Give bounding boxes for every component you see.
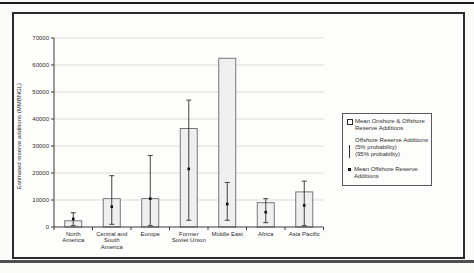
category-label: South	[104, 237, 120, 243]
legend-line: Reserve Additions	[355, 125, 425, 132]
y-tick-label: 40000	[32, 116, 49, 122]
mean-point	[303, 204, 306, 207]
chart-frame: Estimated reserve additions (MMBNGL) 010…	[12, 12, 465, 259]
top-rule	[0, 2, 474, 4]
legend-line: Offshore Reserve Additions	[355, 137, 429, 144]
legend-item-mean-offshore: Mean Offshore Reserve Additions	[347, 166, 429, 180]
category-label: America	[62, 237, 85, 243]
bottom-rule	[0, 260, 474, 263]
y-tick-label: 60000	[32, 62, 49, 68]
category-label: America	[101, 244, 124, 250]
figure-page: Estimated reserve additions (MMBNGL) 010…	[0, 0, 474, 273]
y-tick-label: 20000	[32, 170, 49, 176]
legend-line: (5% probability)	[355, 144, 429, 151]
mean-point	[72, 218, 75, 221]
category-label: Asia Pacific	[289, 231, 320, 237]
legend-item-mean-onshore-offshore: Mean Onshore & Offshore Reserve Addition…	[347, 118, 429, 132]
legend-text-block: Offshore Reserve Additions (5% probabili…	[355, 137, 429, 158]
mean-point	[149, 197, 152, 200]
legend-line: (95% probability)	[355, 151, 429, 158]
open-square-icon	[347, 119, 353, 125]
legend-line: Additions	[354, 173, 418, 180]
filled-square-icon	[348, 168, 351, 171]
mean-point	[226, 203, 229, 206]
mean-point	[110, 205, 113, 208]
y-tick-label: 0	[46, 224, 50, 230]
category-label: Africa	[258, 231, 274, 237]
y-tick-label: 50000	[32, 89, 49, 95]
legend-text-block: Mean Onshore & Offshore Reserve Addition…	[355, 118, 425, 132]
category-label: Former	[179, 231, 198, 237]
category-label: Europe	[141, 231, 161, 237]
category-label: Soviet Union	[172, 237, 206, 243]
y-tick-label: 10000	[32, 197, 49, 203]
legend-box: Mean Onshore & Offshore Reserve Addition…	[342, 113, 432, 186]
mean-point	[187, 168, 190, 171]
category-label: Central and	[96, 231, 127, 237]
error-bar-icon	[349, 145, 350, 158]
legend-line: Mean Onshore & Offshore	[355, 118, 425, 125]
y-tick-label: 70000	[32, 35, 49, 41]
y-tick-label: 30000	[32, 143, 49, 149]
legend-line: Mean Offshore Reserve	[354, 166, 418, 173]
legend-item-offshore-range: Offshore Reserve Additions (5% probabili…	[347, 137, 429, 158]
y-axis-title: Estimated reserve additions (MMBNGL)	[16, 83, 22, 189]
category-label: North	[66, 231, 81, 237]
category-label: Middle East	[212, 231, 244, 237]
mean-point	[264, 211, 267, 214]
legend-text-block: Mean Offshore Reserve Additions	[354, 166, 418, 180]
